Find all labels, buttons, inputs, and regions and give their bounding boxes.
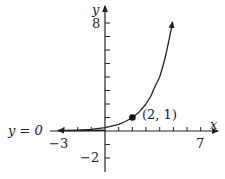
- x-axis-label: x: [210, 117, 218, 132]
- y-axis-label: y: [91, 2, 100, 17]
- point-label: (2, 1): [142, 107, 177, 122]
- asymptote-label: y = 0: [7, 123, 43, 138]
- y-max-label: 8: [92, 16, 100, 31]
- x-max-label: 7: [196, 136, 204, 151]
- y-min-label: −2: [80, 150, 99, 165]
- y-ticks: [105, 23, 110, 158]
- point-2-1: [129, 114, 136, 121]
- x-min-label: −3: [49, 136, 68, 151]
- graph: y 8 x −3 7 −2 y = 0 (2, 1): [0, 0, 225, 179]
